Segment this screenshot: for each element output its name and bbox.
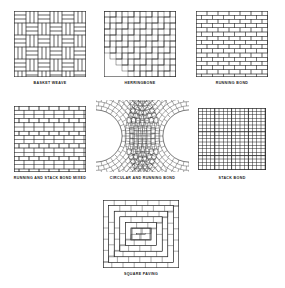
pattern-panel-stack-bond	[198, 108, 266, 170]
pattern-drawing-running-and-stack-bond-mixed	[14, 106, 86, 172]
pattern-caption-herringbone: HERRINGBONE	[104, 81, 176, 86]
pattern-drawing-square-paving	[103, 200, 179, 268]
pattern-panel-circular-and-running-bond	[96, 100, 189, 172]
pattern-drawing-herringbone	[104, 11, 176, 77]
pattern-drawing-stack-bond	[198, 108, 266, 170]
pattern-caption-square-paving: SQUARE PAVING	[103, 272, 179, 277]
pattern-drawing-basket-weave	[14, 11, 86, 77]
pattern-caption-running-and-stack-bond-mixed: RUNNING AND STACK BOND MIXED	[2, 176, 98, 181]
pattern-caption-running-bond: RUNNING BOND	[196, 81, 268, 86]
pattern-caption-stack-bond: STACK BOND	[198, 176, 266, 181]
pattern-caption-basket-weave: BASKET WEAVE	[14, 81, 86, 86]
pattern-panel-herringbone	[104, 11, 176, 77]
paving-pattern-sheet: BASKET WEAVEHERRINGBONERUNNING BONDRUNNI…	[0, 0, 285, 288]
pattern-panel-running-and-stack-bond-mixed	[14, 106, 86, 172]
pattern-drawing-running-bond	[196, 11, 268, 77]
pattern-caption-circular-and-running-bond: CIRCULAR AND RUNNING BOND	[96, 176, 189, 181]
pattern-panel-running-bond	[196, 11, 268, 77]
pattern-drawing-circular-and-running-bond	[96, 100, 189, 172]
pattern-panel-square-paving	[103, 200, 179, 268]
pattern-panel-basket-weave	[14, 11, 86, 77]
